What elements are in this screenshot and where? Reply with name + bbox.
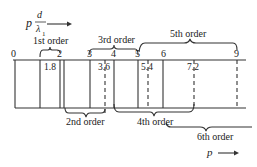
brace-5th-order bbox=[139, 39, 237, 52]
brace-6th-order bbox=[166, 123, 252, 131]
tick-1-8: 1.8 bbox=[44, 62, 56, 72]
label-3rd-order: 3rd order bbox=[98, 35, 135, 45]
label-2nd-order: 2nd order bbox=[66, 117, 105, 127]
tick-7-2: 7.2 bbox=[187, 62, 199, 72]
label-1st-order: 1st order bbox=[33, 36, 68, 46]
tick-2: 2 bbox=[57, 49, 62, 59]
label-5th-order: 5th order bbox=[170, 29, 206, 39]
axis-top-numerator: d bbox=[37, 10, 42, 20]
tick-4: 4 bbox=[111, 49, 116, 59]
brace-4th-order bbox=[114, 104, 194, 116]
label-6th-order: 6th order bbox=[197, 132, 233, 142]
axis-bottom-var: p bbox=[207, 147, 213, 157]
tick-9: 9 bbox=[234, 49, 239, 59]
tick-5: 5 bbox=[135, 49, 140, 59]
tick-6: 6 bbox=[161, 49, 166, 59]
tick-0: 0 bbox=[11, 49, 16, 59]
tick-5-4: 5.4 bbox=[141, 62, 153, 72]
label-4th-order: 4th order bbox=[137, 117, 173, 127]
axis-top-var: p bbox=[26, 18, 32, 28]
axis-top-denominator: λ bbox=[36, 24, 40, 34]
tick-3: 3 bbox=[87, 49, 92, 59]
tick-3-6: 3.6 bbox=[98, 62, 110, 72]
